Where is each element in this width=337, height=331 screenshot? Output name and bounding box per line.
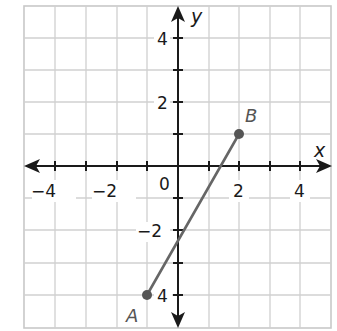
y-tick-4: 4 bbox=[157, 29, 168, 49]
point-b-label: B bbox=[245, 105, 257, 126]
point-b bbox=[234, 129, 244, 139]
x-tick-neg2: −2 bbox=[92, 181, 117, 201]
x-tick-4: 4 bbox=[294, 181, 305, 201]
coordinate-plane: y x −4 −2 0 2 4 4 2 −2 4 A B bbox=[0, 0, 337, 331]
y-tick-2: 2 bbox=[157, 93, 168, 113]
y-tick-labels: 4 2 −2 4 bbox=[136, 29, 172, 307]
point-a-label: A bbox=[125, 305, 138, 326]
y-tick-neg4: 4 bbox=[157, 286, 168, 306]
y-tick-neg2: −2 bbox=[137, 221, 162, 241]
point-a bbox=[142, 290, 152, 300]
x-tick-2: 2 bbox=[233, 181, 244, 201]
segment-ab bbox=[147, 134, 239, 295]
x-axis-label: x bbox=[313, 139, 326, 161]
y-axis-label: y bbox=[190, 5, 203, 27]
origin-label: 0 bbox=[159, 174, 170, 194]
x-tick-neg4: −4 bbox=[31, 181, 56, 201]
